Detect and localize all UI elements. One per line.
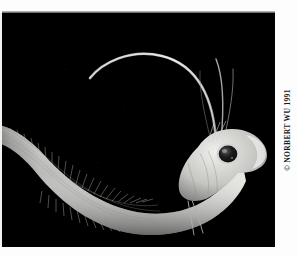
copyright-text: © NORBERT WU 1991 — [283, 89, 292, 171]
copyright-credit: © NORBERT WU 1991 — [276, 13, 298, 247]
fish-photograph — [2, 13, 275, 247]
vignette-overlay — [2, 13, 275, 247]
photo-page: © NORBERT WU 1991 — [0, 0, 298, 257]
photograph-plate — [2, 13, 275, 247]
